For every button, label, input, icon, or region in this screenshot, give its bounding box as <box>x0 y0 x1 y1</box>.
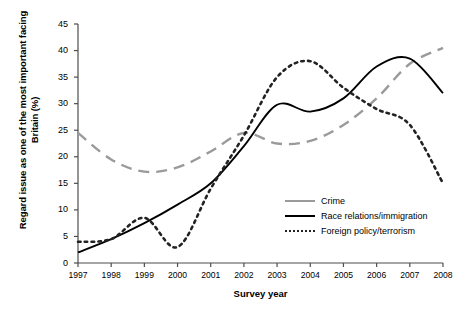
legend-swatch-foreign-policy <box>285 225 315 237</box>
x-tick-label: 2008 <box>425 270 461 280</box>
y-tick-label: 0 <box>46 258 68 268</box>
plot-canvas <box>0 0 466 311</box>
y-tick-label: 25 <box>46 125 68 135</box>
y-tick-label: 35 <box>46 72 68 82</box>
x-tick-label: 2001 <box>193 270 229 280</box>
y-tick-label: 40 <box>46 45 68 55</box>
legend-label-crime: Crime <box>321 196 345 206</box>
x-axis-label: Survey year <box>78 288 443 299</box>
x-tick-label: 2002 <box>226 270 262 280</box>
y-tick-label: 15 <box>46 178 68 188</box>
chart-figure: Regard issue as one of the most importan… <box>0 0 466 311</box>
x-tick-label: 2007 <box>392 270 428 280</box>
legend-item-crime[interactable]: Crime <box>285 193 428 208</box>
legend-label-race-relations: Race relations/immigration <box>321 211 428 221</box>
x-tick-label: 2006 <box>359 270 395 280</box>
x-tick-label: 1997 <box>60 270 96 280</box>
legend-item-foreign-policy[interactable]: Foreign policy/terrorism <box>285 223 428 238</box>
x-tick-label: 2004 <box>292 270 328 280</box>
x-tick-label: 1998 <box>93 270 129 280</box>
y-tick-label: 10 <box>46 204 68 214</box>
x-tick-label: 2005 <box>325 270 361 280</box>
y-tick-label: 45 <box>46 19 68 29</box>
legend-item-race-relations[interactable]: Race relations/immigration <box>285 208 428 223</box>
legend-label-foreign-policy: Foreign policy/terrorism <box>321 226 415 236</box>
x-tick-label: 2000 <box>160 270 196 280</box>
y-tick-label: 5 <box>46 231 68 241</box>
legend-swatch-race-relations <box>285 210 315 222</box>
series-line-crime <box>78 48 443 172</box>
y-tick-label: 30 <box>46 98 68 108</box>
chart-legend: Crime Race relations/immigration Foreign… <box>285 193 428 238</box>
y-axis-label: Regard issue as one of the most importan… <box>17 0 41 245</box>
y-tick-label: 20 <box>46 151 68 161</box>
x-tick-label: 1999 <box>126 270 162 280</box>
legend-swatch-crime <box>285 195 315 207</box>
x-tick-label: 2003 <box>259 270 295 280</box>
